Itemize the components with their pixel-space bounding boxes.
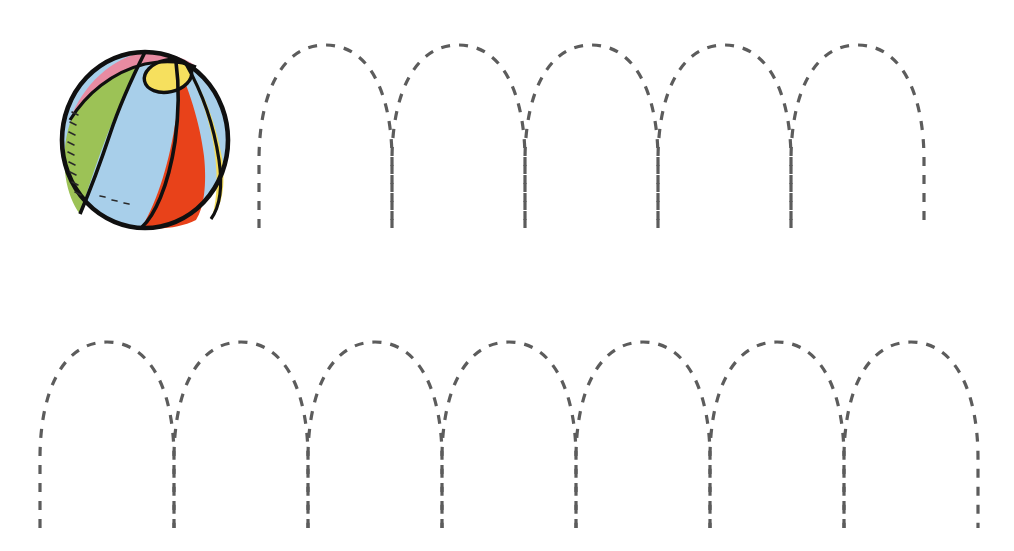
trace-row-bottom[interactable] (40, 342, 978, 528)
trace-arch[interactable] (844, 342, 978, 528)
trace-arch[interactable] (658, 45, 791, 228)
trace-arch[interactable] (308, 342, 442, 528)
trace-arch[interactable] (525, 45, 658, 228)
worksheet-page (0, 0, 1014, 551)
trace-arch[interactable] (710, 342, 844, 528)
trace-arch[interactable] (442, 342, 576, 528)
trace-arch[interactable] (791, 45, 924, 228)
trace-arch[interactable] (40, 342, 174, 528)
trace-row-top[interactable] (259, 45, 924, 228)
beach-ball-illustration (62, 52, 228, 228)
trace-arch[interactable] (259, 45, 392, 228)
trace-arch[interactable] (392, 45, 525, 228)
trace-arch[interactable] (576, 342, 710, 528)
worksheet-canvas (0, 0, 1014, 551)
trace-arch[interactable] (174, 342, 308, 528)
